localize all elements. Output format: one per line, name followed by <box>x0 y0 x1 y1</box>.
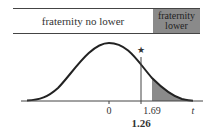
t-distribution-plot <box>0 0 211 136</box>
axis-variable-label: t <box>192 105 195 116</box>
critical-value-label: 1.69 <box>143 105 161 116</box>
density-curve <box>27 43 193 101</box>
zero-tick-label: 0 <box>107 105 112 116</box>
star-icon: ★ <box>137 45 145 55</box>
rejection-tail-area <box>152 78 193 101</box>
test-statistic-label: 1.26 <box>131 117 150 129</box>
